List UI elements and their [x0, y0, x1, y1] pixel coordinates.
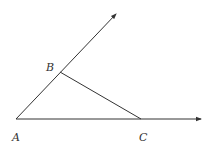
- segment-bc: [60, 72, 141, 119]
- ray-ab: [16, 14, 116, 119]
- geometry-diagram: A B C: [0, 0, 211, 153]
- label-c: C: [139, 131, 148, 144]
- label-a: A: [11, 131, 20, 144]
- label-b: B: [45, 61, 54, 74]
